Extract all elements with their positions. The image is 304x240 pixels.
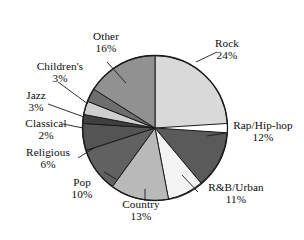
pie-label-other-name: Other [82,31,130,43]
pie-label-country-pct: 13% [110,211,172,223]
pie-label-religious-name: Religious [11,147,85,159]
pie-label-jazz-pct: 3% [14,102,58,114]
pie-label-childrens-pct: 3% [24,73,96,85]
pie-label-classical-name: Classical [8,118,84,130]
pie-label-childrens-name: Children's [24,61,96,73]
pie-slices [82,56,227,201]
pie-label-jazz: Jazz 3% [14,90,58,113]
pie-label-pop-pct: 10% [60,189,104,201]
pie-label-rap-name: Rap/Hip-hop [224,120,302,132]
pie-label-rap-pct: 12% [224,132,302,144]
pie-label-other-pct: 16% [82,43,130,55]
pie-label-rap: Rap/Hip-hop 12% [224,120,302,143]
pie-label-religious: Religious 6% [11,147,85,170]
pie-label-classical: Classical 2% [8,118,84,141]
pie-label-other: Other 16% [82,31,130,54]
pie-chart-figure: Rock 24% Rap/Hip-hop 12% R&B/Urban 11% C… [0,0,304,240]
leader-line-childrens [58,82,88,104]
pie-slice-rock [155,56,227,129]
pie-label-country-name: Country [110,199,172,211]
pie-label-rnb-pct: 11% [190,194,282,206]
pie-label-childrens: Children's 3% [24,61,96,84]
pie-label-country: Country 13% [110,199,172,222]
pie-label-rock: Rock 24% [198,38,256,61]
pie-label-pop-name: Pop [60,177,104,189]
pie-label-rnb-name: R&B/Urban [190,182,282,194]
pie-label-rnb: R&B/Urban 11% [190,182,282,205]
pie-label-classical-pct: 2% [8,130,84,142]
pie-label-religious-pct: 6% [11,159,85,171]
pie-label-rock-pct: 24% [198,50,256,62]
pie-label-jazz-name: Jazz [14,90,58,102]
pie-label-pop: Pop 10% [60,177,104,200]
pie-label-rock-name: Rock [198,38,256,50]
